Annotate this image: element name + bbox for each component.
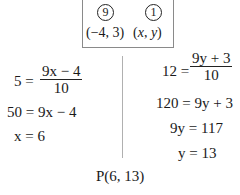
right-eq2: 120 = 9y + 3 (156, 95, 233, 112)
left-eq1-lhs: 5 = (14, 73, 34, 90)
point-left: (−4, 3) (86, 25, 124, 41)
result-point: P(6, 13) (96, 168, 144, 185)
divider-line (122, 56, 123, 158)
point-right: (x, y) (133, 25, 162, 41)
left-eq3: x = 6 (14, 128, 45, 145)
left-eq2: 50 = 9x − 4 (7, 104, 76, 121)
left-eq1-fraction: 9x − 4 10 (40, 63, 82, 96)
ratio-box: 9 1 (−4, 3) (x, y) (82, 0, 174, 48)
right-eq1-fraction: 9y + 3 10 (190, 50, 232, 83)
ratio-right-circle: 1 (145, 4, 162, 21)
right-eq4: y = 13 (178, 145, 216, 162)
right-eq1-lhs: 12 = (162, 63, 189, 80)
right-eq3: 9y = 117 (170, 120, 223, 137)
ratio-left-circle: 9 (97, 4, 114, 21)
